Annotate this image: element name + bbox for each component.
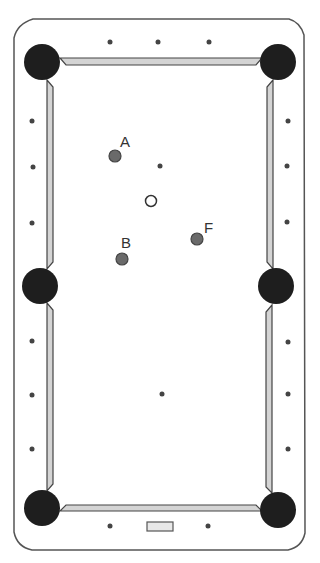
nameplate (147, 522, 173, 531)
diamond-right-3 (285, 220, 290, 225)
diamond-bottom-1 (108, 524, 113, 529)
pocket-top-left (24, 44, 60, 80)
foot-spot (160, 392, 165, 397)
rail-left-upper (47, 80, 53, 269)
rail-right-lower (266, 305, 272, 493)
diamond-top-1 (108, 40, 113, 45)
diamond-left-6 (30, 447, 35, 452)
diamond-right-5 (286, 392, 291, 397)
ball-circle (191, 233, 203, 245)
rail-bottom (60, 505, 262, 511)
diamond-left-5 (30, 393, 35, 398)
pocket-top-right (260, 44, 296, 80)
ball-circle (109, 150, 121, 162)
pocket-bottom-left (24, 490, 60, 526)
diamond-top-2 (156, 40, 161, 45)
ball-label: A (120, 133, 130, 150)
pocket-middle-right (258, 268, 294, 304)
head-spot (158, 164, 163, 169)
rail-left-lower (47, 303, 53, 491)
rail-right-upper (267, 80, 273, 269)
pocket-middle-left (22, 268, 58, 304)
cue-ball (146, 196, 157, 207)
ball-label: F (204, 219, 213, 236)
diamond-right-1 (286, 119, 291, 124)
diamond-left-4 (30, 339, 35, 344)
diamond-right-2 (285, 164, 290, 169)
diamond-left-2 (31, 165, 36, 170)
ball-label: B (121, 234, 131, 251)
diamond-right-6 (286, 447, 291, 452)
pool-table-diagram: ABF (0, 0, 320, 563)
diamond-right-4 (286, 340, 291, 345)
diamond-bottom-2 (206, 524, 211, 529)
diamond-left-1 (30, 119, 35, 124)
cue-ball-circle (146, 196, 157, 207)
ball-circle (116, 253, 128, 265)
diamond-top-3 (207, 40, 212, 45)
pocket-bottom-right (260, 492, 296, 528)
rail-top (60, 58, 262, 65)
diamond-left-3 (30, 221, 35, 226)
